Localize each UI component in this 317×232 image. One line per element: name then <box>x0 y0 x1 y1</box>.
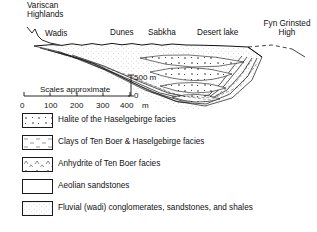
legend-label-aeolian: Aeolian sandstones <box>58 181 129 190</box>
label-sabkha: Sabkha <box>148 29 176 38</box>
label-variscan-highlands: Variscan Highlands <box>27 2 63 19</box>
legend-swatch-aeolian <box>22 179 53 194</box>
legend-item-fluvial: Fluvial (wadi) conglomerates, sandstones… <box>0 201 317 223</box>
legend-swatch-clays <box>22 135 53 150</box>
scale-tick-100: 100 <box>44 101 57 110</box>
legend-item-clays: Clays of Ten Boer & Haselgebirge facies <box>0 135 317 157</box>
scale-tick-400: 400 <box>120 101 133 110</box>
vertical-scale-top-label: 500 m <box>134 73 156 82</box>
label-wadis: Wadis <box>45 30 67 39</box>
legend-swatch-anhydrite <box>22 157 53 172</box>
legend-swatch-fluvial <box>22 201 53 216</box>
label-fyn-grinsted-high: Fyn Grinsted High <box>258 20 316 37</box>
legend-label-anhydrite: Anhydrite of Ten Boer facies <box>58 159 160 168</box>
vertical-scale-bottom-label: 0 <box>134 91 138 100</box>
legend-item-aeolian: Aeolian sandstones <box>0 179 317 201</box>
label-dunes: Dunes <box>110 29 134 38</box>
scale-tick-0: 0 <box>20 101 24 110</box>
legend-item-halite: Halite of the Haselgebirge facies <box>0 113 317 135</box>
scale-unit-label: m <box>142 101 149 110</box>
label-variscan-line2: Highlands <box>27 11 63 20</box>
scale-tick-200: 200 <box>70 101 83 110</box>
legend-swatch-halite <box>22 113 53 128</box>
scale-note: Scales approximate <box>40 85 110 94</box>
legend-label-clays: Clays of Ten Boer & Haselgebirge facies <box>58 137 204 146</box>
legend-item-anhydrite: Anhydrite of Ten Boer facies <box>0 157 317 179</box>
legend-label-halite: Halite of the Haselgebirge facies <box>58 115 176 124</box>
label-desert-lake: Desert lake <box>197 29 238 38</box>
legend-label-fluvial: Fluvial (wadi) conglomerates, sandstones… <box>58 203 253 212</box>
legend: Halite of the Haselgebirge facies Clays … <box>0 113 317 223</box>
label-fyn-line2: High <box>258 29 316 38</box>
scale-tick-300: 300 <box>96 101 109 110</box>
